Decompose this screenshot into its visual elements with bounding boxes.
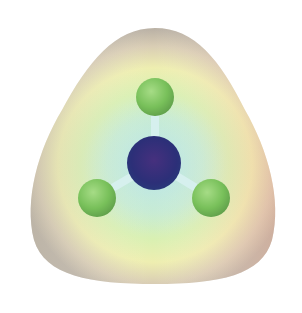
electrostatic-potential-map [0,0,302,313]
atom-central [127,136,181,190]
atom-terminal-right [192,179,230,217]
atom-terminal-top [136,78,174,116]
atom-terminal-left [78,179,116,217]
